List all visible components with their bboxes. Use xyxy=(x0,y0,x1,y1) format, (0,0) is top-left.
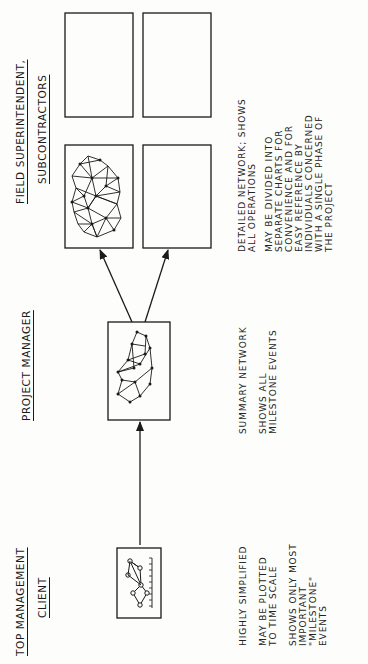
pm-summary-network xyxy=(108,322,170,420)
arrow-pm-to-detailed-1 xyxy=(100,250,132,322)
note-client-time-scale: MAY BE PLOTTED TO TIME SCALE xyxy=(258,556,278,646)
detailed-chart-2 xyxy=(143,145,211,248)
note-field-detailed: DETAILED NETWORK; SHOWS ALL OPERATIONS xyxy=(237,98,257,252)
arrow-pm-to-detailed-2 xyxy=(145,250,168,322)
note-client-simplified: HIGHLY SIMPLIFIED xyxy=(238,546,248,646)
note-pm-summary: SUMMARY NETWORK xyxy=(238,326,248,434)
note-pm-milestones: SHOWS ALL MILESTONE EVENTS xyxy=(258,329,278,434)
network-hierarchy-diagram: TOP MANAGEMENT CLIENT PROJECT MANAGER FI… xyxy=(0,0,368,664)
note-client-milestones: SHOWS ONLY MOST IMPORTANT "MILESTONE" EV… xyxy=(288,543,328,646)
detailed-chart-3 xyxy=(65,13,133,117)
client-milestone-chart xyxy=(117,548,161,618)
note-field-divided: MAY BE DIVIDED INTO SEPARATE CHARTS FOR … xyxy=(264,114,334,252)
detailed-chart-4 xyxy=(143,13,211,117)
